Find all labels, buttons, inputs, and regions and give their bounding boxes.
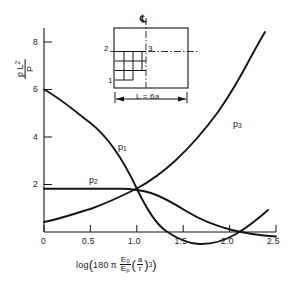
modulus-ratio-denominator: Ep (120, 265, 131, 273)
inset-node-label-2: 2 (104, 44, 108, 53)
centerline-symbol-icon: ℄ (140, 13, 145, 24)
x-tick-label-2p0: 2.0 (221, 237, 234, 246)
x-tick-label-1p0: 1.0 (128, 237, 141, 246)
x-axis-label: log(180π E0 Ep ( a r )3) (76, 256, 157, 273)
curve-p1 (44, 90, 268, 245)
inset-node-label-1: 1 (108, 76, 112, 85)
y-axis-label: p L2 P (5, 52, 45, 86)
inset-node-label-3: 3 (148, 44, 152, 53)
y-axis-numerator-exponent: 2 (14, 61, 21, 65)
modulus-ratio-fraction: E0 Ep (120, 256, 131, 273)
y-axis-label-rotated: p L2 P (15, 59, 36, 79)
dim-arrow-right-icon (178, 97, 186, 102)
y-tick-label-2: 2 (33, 180, 38, 189)
curve-label-p1-sub: 1 (123, 145, 127, 152)
curve-label-p2: p2 (89, 176, 98, 185)
y-ticks-group (44, 42, 52, 185)
x-axis-constant: 180 (93, 260, 109, 270)
curve-label-p2-sub: 2 (94, 178, 98, 185)
y-tick-label-6: 6 (33, 85, 38, 94)
inset-dimension-label: L = 6a (136, 92, 159, 101)
inset-outer-square (114, 28, 188, 88)
y-axis-fraction: p L2 P (15, 59, 36, 79)
curve-label-p3-sub: 3 (238, 122, 242, 129)
x-axis-log-fn: log (76, 260, 89, 270)
y-axis-numerator-text: p L (15, 65, 25, 78)
inset-diagram (110, 18, 199, 103)
x-axis-close-paren: ) (152, 258, 156, 271)
inset-mesh (115, 52, 146, 81)
x-tick-label-2p5: 2.5 (267, 237, 280, 246)
dim-arrow-left-icon (116, 97, 124, 102)
y-tick-label-4: 4 (33, 133, 38, 142)
ar-ratio-denominator: r (137, 265, 143, 273)
y-tick-label-8: 8 (33, 38, 38, 47)
ar-ratio-fraction: a r (137, 256, 143, 273)
curve-label-p1: p1 (118, 143, 127, 152)
x-tick-label-0p5: 0.5 (82, 237, 95, 246)
figure-container: 2 4 6 8 0 0.5 1.0 1.5 2.0 2.5 p L2 P log… (0, 0, 306, 289)
axes-group (44, 28, 276, 232)
x-axis-inner-open-paren: ( (132, 258, 136, 271)
curve-label-p3: p3 (233, 120, 242, 129)
pi-symbol: π (109, 260, 119, 270)
x-tick-label-0: 0 (41, 237, 46, 246)
E0-subscript: 0 (126, 258, 129, 264)
x-tick-label-1p5: 1.5 (175, 237, 188, 246)
y-axis-denominator: P (26, 59, 35, 79)
Ep-subscript: p (126, 267, 129, 273)
